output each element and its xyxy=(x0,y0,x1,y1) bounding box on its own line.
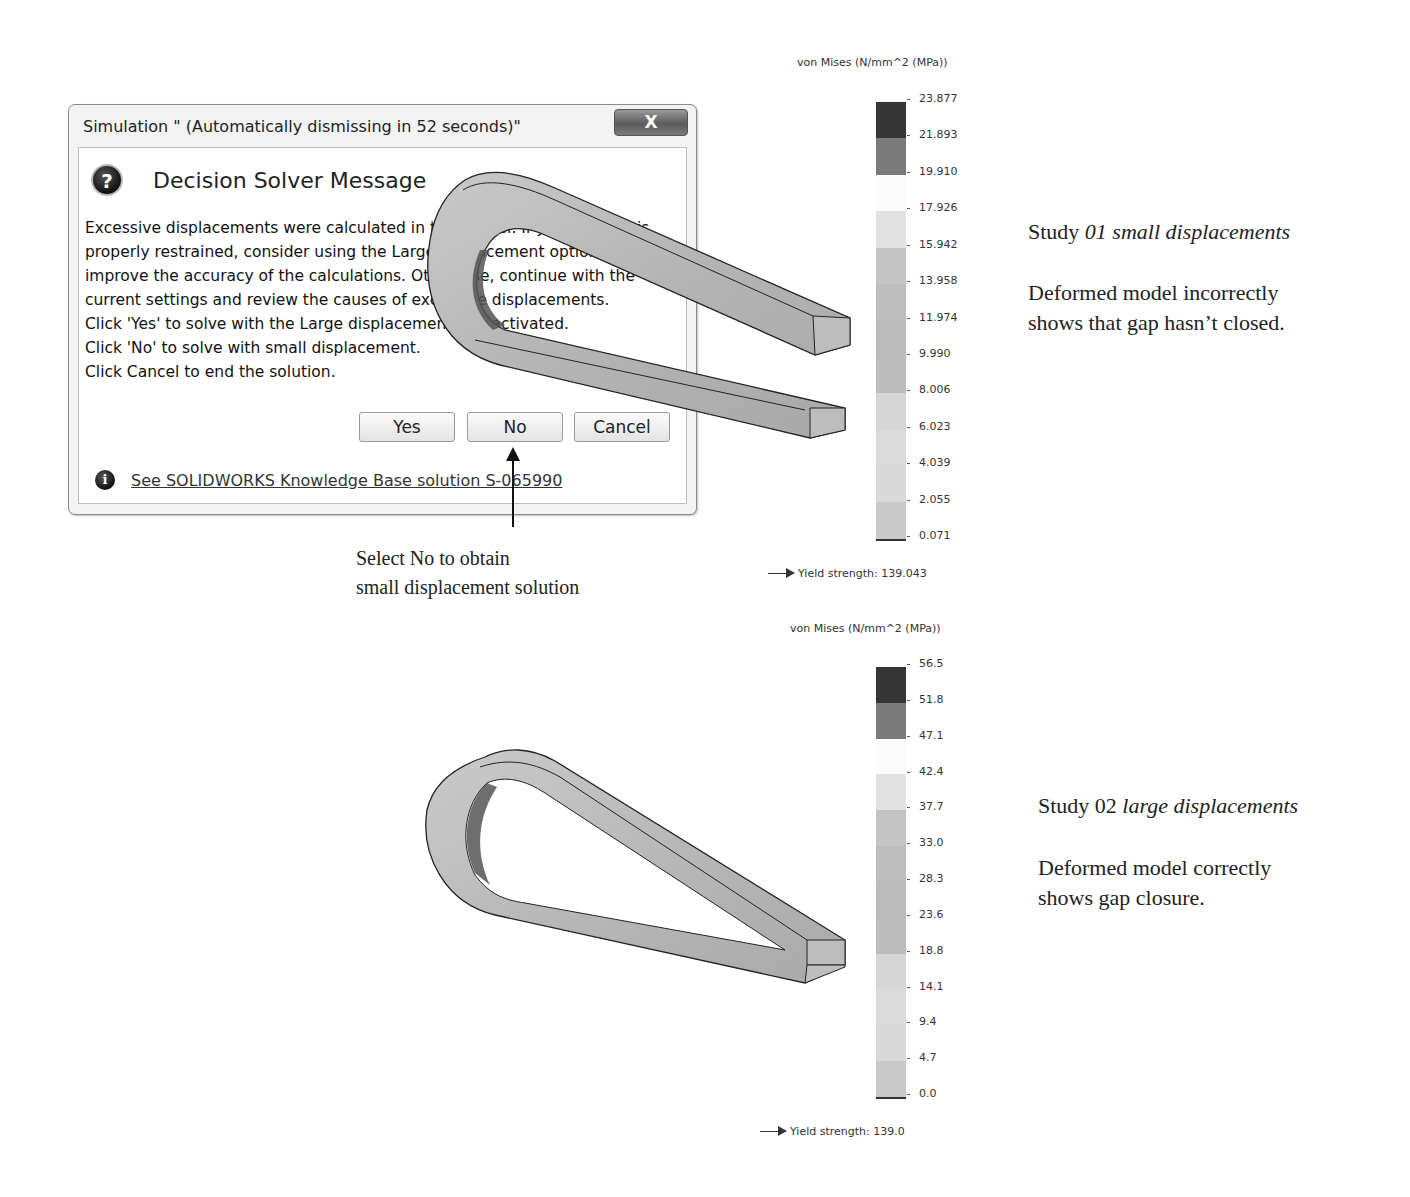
legend-color-segment xyxy=(876,466,906,502)
legend-tick-label: 21.893 xyxy=(919,128,958,141)
legend-color-segment xyxy=(876,248,906,284)
legend-tick-label: 4.039 xyxy=(919,456,951,469)
legend2-title: von Mises (N/mm^2 (MPa)) xyxy=(790,622,941,635)
legend1-color-bar xyxy=(876,102,906,539)
study1-title-italic: 01 small displacements xyxy=(1085,219,1290,244)
legend-color-segment xyxy=(876,320,906,356)
legend-tick-label: 19.910 xyxy=(919,165,958,178)
legend-tick-label: 56.5 xyxy=(919,657,944,670)
legend-color-segment xyxy=(876,774,906,810)
no-button-callout: Select No to obtain small displacement s… xyxy=(356,544,579,602)
legend1-title: von Mises (N/mm^2 (MPa)) xyxy=(797,56,948,69)
arrow-right-icon xyxy=(760,1131,778,1132)
knowledge-base-row: i See SOLIDWORKS Knowledge Base solution… xyxy=(95,470,562,490)
legend-color-segment xyxy=(876,810,906,846)
message-heading: Decision Solver Message xyxy=(153,168,426,193)
legend-color-segment xyxy=(876,211,906,247)
message-header: ? Decision Solver Message xyxy=(91,164,426,196)
legend-tick-label: 23.6 xyxy=(919,908,944,921)
legend-color-segment xyxy=(876,1061,906,1097)
legend-color-segment xyxy=(876,357,906,393)
legend1-yield-strength: Yield strength: 139.043 xyxy=(768,567,927,580)
study2-description: Deformed model correctly shows gap closu… xyxy=(1038,853,1271,913)
callout-line: small displacement solution xyxy=(356,573,579,602)
yield-strength-text: Yield strength: 139.0 xyxy=(790,1125,905,1138)
close-button[interactable]: X xyxy=(614,109,688,136)
study2-title-prefix: Study 02 xyxy=(1038,793,1122,818)
legend-color-segment xyxy=(876,430,906,466)
legend-tick-label: 28.3 xyxy=(919,872,944,885)
legend-color-segment xyxy=(876,1025,906,1061)
dialog-title: Simulation " (Automatically dismissing i… xyxy=(83,117,521,136)
legend-tick-label: 15.942 xyxy=(919,238,958,251)
description-line: shows gap closure. xyxy=(1038,883,1271,913)
legend-tick-label: 13.958 xyxy=(919,274,958,287)
legend-tick-label: 0.071 xyxy=(919,529,951,542)
legend-color-segment xyxy=(876,918,906,954)
legend-baseline xyxy=(876,539,906,541)
question-icon: ? xyxy=(91,164,123,196)
arrow-right-icon xyxy=(768,573,786,574)
legend-tick-label: 9.990 xyxy=(919,347,951,360)
legend-color-segment xyxy=(876,882,906,918)
study1-title: Study 01 small displacements xyxy=(1028,219,1290,245)
callout-line: Select No to obtain xyxy=(356,544,579,573)
description-line: Deformed model incorrectly xyxy=(1028,278,1285,308)
legend-tick-label: 9.4 xyxy=(919,1015,937,1028)
legend-color-segment xyxy=(876,102,906,138)
study1-title-prefix: Study xyxy=(1028,219,1085,244)
study1-description: Deformed model incorrectly shows that ga… xyxy=(1028,278,1285,338)
legend-color-segment xyxy=(876,284,906,320)
legend-tick-label: 11.974 xyxy=(919,311,958,324)
legend-baseline xyxy=(876,1097,906,1099)
study2-title-italic: large displacements xyxy=(1122,793,1298,818)
legend-tick-label: 14.1 xyxy=(919,980,944,993)
legend-tick-label: 4.7 xyxy=(919,1051,937,1064)
legend-tick-label: 47.1 xyxy=(919,729,944,742)
legend-color-segment xyxy=(876,667,906,703)
study1-deformed-model xyxy=(405,140,865,440)
legend-color-segment xyxy=(876,393,906,429)
legend-color-segment xyxy=(876,954,906,990)
legend-tick-label: 6.023 xyxy=(919,420,951,433)
legend-tick-label: 17.926 xyxy=(919,201,958,214)
yield-strength-text: Yield strength: 139.043 xyxy=(798,567,927,580)
legend2-yield-strength: Yield strength: 139.0 xyxy=(760,1125,905,1138)
legend-color-segment xyxy=(876,703,906,739)
legend-color-segment xyxy=(876,846,906,882)
legend-tick-label: 33.0 xyxy=(919,836,944,849)
legend-color-segment xyxy=(876,989,906,1025)
callout-arrow-line xyxy=(512,455,514,527)
study2-deformed-model xyxy=(415,735,855,995)
legend-color-segment xyxy=(876,739,906,775)
legend-tick-label: 23.877 xyxy=(919,92,958,105)
info-icon: i xyxy=(95,470,115,490)
legend-tick-label: 2.055 xyxy=(919,493,951,506)
legend2-color-bar xyxy=(876,667,906,1097)
legend-color-segment xyxy=(876,175,906,211)
legend-tick-label: 37.7 xyxy=(919,800,944,813)
description-line: Deformed model correctly xyxy=(1038,853,1271,883)
legend-tick-label: 51.8 xyxy=(919,693,944,706)
legend-color-segment xyxy=(876,502,906,538)
legend-tick-label: 42.4 xyxy=(919,765,944,778)
knowledge-base-link[interactable]: See SOLIDWORKS Knowledge Base solution S… xyxy=(131,471,562,490)
legend-tick-label: 0.0 xyxy=(919,1087,937,1100)
legend-color-segment xyxy=(876,138,906,174)
study2-title: Study 02 large displacements xyxy=(1038,793,1298,819)
close-icon: X xyxy=(644,112,657,132)
legend-tick-label: 8.006 xyxy=(919,383,951,396)
description-line: shows that gap hasn’t closed. xyxy=(1028,308,1285,338)
legend-tick-label: 18.8 xyxy=(919,944,944,957)
